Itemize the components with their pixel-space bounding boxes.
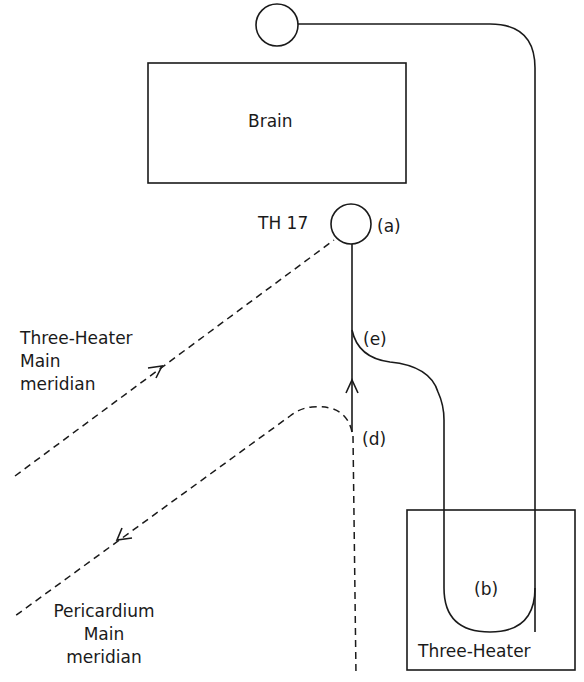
marker-a: (a) — [377, 215, 401, 238]
three-heater-meridian-line — [15, 240, 334, 476]
pericardium-arrow-icon — [117, 528, 132, 540]
pericardium-meridian-line2: Main — [30, 623, 178, 646]
three-heater-meridian-line1: Three-Heater — [20, 327, 133, 350]
marker-d: (d) — [362, 428, 386, 451]
top-connection-line — [298, 24, 535, 632]
three-heater-meridian-line3: meridian — [20, 373, 95, 396]
marker-b: (b) — [474, 578, 498, 601]
th17-label: TH 17 — [258, 212, 308, 235]
pericardium-meridian-line3: meridian — [30, 646, 178, 669]
th17-circle — [331, 204, 371, 244]
three-heater-organ-label: Three-Heater — [418, 640, 531, 663]
top-point-circle — [256, 4, 298, 46]
pericardium-meridian-label: Pericardium Main meridian — [30, 600, 178, 669]
marker-e: (e) — [363, 328, 387, 351]
pericardium-meridian-line1: Pericardium — [30, 600, 178, 623]
three-heater-meridian-line2: Main — [20, 350, 61, 373]
branch-e-line — [352, 330, 444, 588]
brain-label: Brain — [248, 110, 293, 133]
vertical-dashed-line — [353, 436, 356, 675]
